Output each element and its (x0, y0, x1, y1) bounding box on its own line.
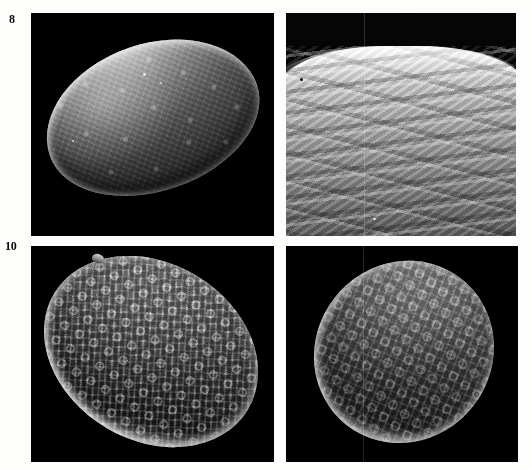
exine-ridge-texture (286, 46, 516, 236)
micrograph-panel-top-left (31, 13, 274, 236)
micrograph-plate: 8 10 (0, 0, 531, 470)
spore-rim-highlight-top-left (31, 13, 274, 223)
figure-label-8: 8 (9, 13, 15, 25)
figure-label-10: 10 (5, 240, 17, 252)
spore-rim-highlight-bottom-right (286, 246, 518, 462)
spore-rim-highlight-bottom-left (31, 246, 274, 462)
micrograph-panel-top-right (286, 13, 516, 236)
micrograph-panel-bottom-right (286, 246, 518, 462)
micrograph-panel-bottom-left (31, 246, 274, 462)
exine-surface-detail (286, 46, 516, 236)
